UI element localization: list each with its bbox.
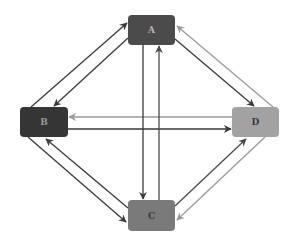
edge-c-to-d-arrow (175, 139, 246, 206)
node-label: B (40, 117, 48, 127)
nodes-layer: ABCD (20, 15, 279, 231)
graph-diagram: ABCD (0, 0, 299, 241)
node-b: B (20, 107, 68, 137)
node-label: C (148, 211, 155, 221)
node-c: C (128, 200, 175, 231)
edge-a-to-d-arrow (175, 39, 254, 106)
node-a: A (128, 15, 175, 45)
node-d: D (232, 107, 279, 137)
edge-a-to-b-arrow (54, 38, 128, 106)
node-label: D (252, 117, 260, 127)
edge-d-to-a-arrow (177, 26, 273, 107)
node-label: A (147, 25, 156, 35)
edge-b-to-a-arrow (31, 23, 127, 107)
edge-c-to-b-arrow (46, 139, 128, 208)
edge-b-to-c-arrow (28, 137, 126, 222)
edge-d-to-c-arrow (177, 137, 265, 220)
